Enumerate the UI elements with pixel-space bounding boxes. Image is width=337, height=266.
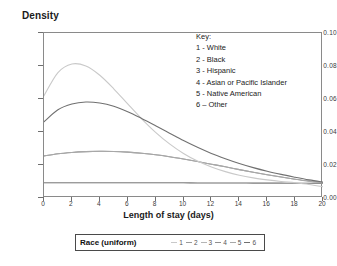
legend-item[interactable]: 1 [171, 239, 183, 246]
density-curve [44, 183, 323, 184]
legend-item-number: 3 [209, 239, 213, 246]
legend-item-number: 2 [194, 239, 198, 246]
legend-line-swatch [186, 242, 192, 244]
legend-item-number: 1 [179, 239, 183, 246]
legend-item[interactable]: 3 [201, 239, 213, 246]
legend-item[interactable]: 6 [244, 239, 256, 246]
legend-item-number: 4 [223, 239, 227, 246]
x-tick-label: 10 [173, 200, 193, 207]
legend-swatch-group: 123456 [142, 239, 264, 246]
density-curve [44, 151, 323, 183]
legend-line-swatch [244, 242, 250, 244]
legend-item[interactable]: 4 [215, 239, 227, 246]
key-entry: 6 – Other [196, 99, 328, 110]
x-tick-label: 16 [256, 200, 276, 207]
x-tick-label: 18 [284, 200, 304, 207]
legend-bar-title: Race (uniform) [76, 238, 142, 247]
key-entry: 5 - Native American [196, 88, 328, 99]
x-tick-label: 12 [200, 200, 220, 207]
key-legend: Key: 1 - White2 - Black3 - Hispanic4 - A… [196, 31, 328, 111]
key-entry: 4 - Asian or Pacific Islander [196, 77, 328, 88]
x-tick-label: 2 [61, 200, 81, 207]
legend-item[interactable]: 5 [230, 239, 242, 246]
x-tick-label: 8 [145, 200, 165, 207]
x-axis-title: Length of stay (days) [0, 210, 337, 220]
legend-item-number: 5 [238, 239, 242, 246]
x-tick-label: 6 [117, 200, 137, 207]
legend-line-swatch [201, 242, 207, 244]
key-heading: Key: [196, 31, 328, 42]
density-curve [44, 151, 323, 183]
legend-line-swatch [230, 242, 236, 244]
key-entry: 2 - Black [196, 54, 328, 65]
key-entry: 1 - White [196, 42, 328, 53]
legend-line-swatch [171, 242, 177, 244]
legend-line-swatch [215, 242, 221, 244]
key-entry: 3 - Hispanic [196, 65, 328, 76]
legend-item[interactable]: 2 [186, 239, 198, 246]
x-tick-label: 20 [312, 200, 332, 207]
y-axis-title: Density [22, 10, 59, 21]
density-chart-figure: Density 0.100.080.060.040.020.00 0246810… [0, 0, 337, 266]
x-tick-label: 14 [228, 200, 248, 207]
density-curve [44, 102, 323, 182]
x-tick-label: 0 [33, 200, 53, 207]
legend-item-number: 6 [252, 239, 256, 246]
x-tick-label: 4 [89, 200, 109, 207]
race-legend-bar: Race (uniform) 123456 [75, 234, 265, 251]
